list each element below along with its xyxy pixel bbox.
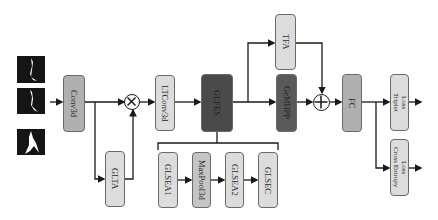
glfes-block: GLFES — [201, 74, 233, 132]
triplet-loss-label-line2: Loss — [400, 96, 408, 109]
ltconv3d-block: LTConv3d — [155, 75, 175, 131]
add-operator-icon — [313, 94, 330, 111]
silhouette-frame-3 — [17, 129, 45, 155]
maxpool3d-block: MaxPool3d — [192, 152, 211, 208]
multiply-operator-icon — [124, 94, 140, 110]
conv3d-block: Conv3d — [63, 75, 85, 132]
fc-block: FC — [342, 74, 362, 132]
glsea1-label: GLSEA1 — [164, 164, 173, 196]
gemhpp-label: GeMHPP — [282, 86, 291, 119]
glsec-block: GLSEC — [258, 152, 278, 208]
tfa-block: TFA — [275, 14, 296, 70]
conv3d-label: Conv3d — [70, 90, 79, 117]
ltconv3d-label: LTConv3d — [161, 85, 170, 122]
cross-entropy-loss-label-line2: Loss — [400, 161, 408, 174]
glta-block: GLTA — [105, 151, 125, 207]
silhouette-frame-2 — [17, 88, 45, 114]
glsea2-block: GLSEA2 — [225, 152, 244, 208]
triplet-loss-label-line1: Triplet — [391, 93, 399, 112]
fc-label: FC — [348, 98, 357, 108]
cross-entropy-loss-block: Cross Entropy Loss — [390, 139, 409, 196]
glta-label: GLTA — [111, 168, 120, 189]
glsea2-label: GLSEA2 — [230, 164, 239, 196]
architecture-diagram: Conv3d GLTA LTConv3d GLFES TFA GeMHPP FC… — [0, 0, 438, 220]
triplet-loss-block: Triplet Loss — [390, 74, 409, 131]
glfes-label: GLFES — [213, 90, 222, 116]
maxpool3d-label: MaxPool3d — [197, 160, 206, 200]
silhouette-frame-1 — [17, 56, 45, 83]
cross-entropy-loss-label-line1: Cross Entropy — [391, 147, 399, 187]
glsea1-block: GLSEA1 — [158, 152, 178, 208]
tfa-label: TFA — [281, 34, 290, 49]
glsec-label: GLSEC — [264, 167, 273, 194]
gemhpp-block: GeMHPP — [276, 74, 297, 132]
